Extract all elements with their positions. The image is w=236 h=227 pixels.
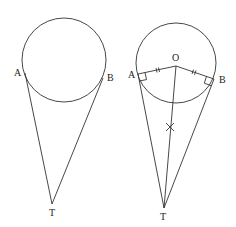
left-label-A: A bbox=[14, 67, 22, 78]
left-circle bbox=[22, 18, 106, 102]
cross-mark bbox=[166, 123, 174, 131]
segment-OT bbox=[164, 66, 176, 208]
right-label-B: B bbox=[219, 74, 226, 85]
left-tangent-TB bbox=[52, 78, 103, 204]
left-figure: A B T bbox=[14, 18, 114, 218]
tangent-diagram: A B T O A B T bbox=[0, 0, 236, 227]
right-label-A: A bbox=[128, 69, 136, 80]
right-figure: O A B T bbox=[128, 23, 226, 222]
right-label-O: O bbox=[172, 52, 179, 63]
left-label-T: T bbox=[49, 207, 55, 218]
right-tangent-TB bbox=[164, 79, 214, 208]
radius-OA bbox=[138, 66, 176, 74]
right-circle bbox=[136, 23, 216, 103]
left-label-B: B bbox=[107, 72, 114, 83]
right-label-T: T bbox=[160, 211, 166, 222]
left-tangent-TA bbox=[25, 73, 52, 204]
